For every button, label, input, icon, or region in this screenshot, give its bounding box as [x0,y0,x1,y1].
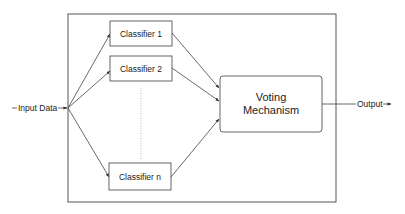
edge-input-to-classifier-n [68,108,109,177]
voting-label-line-2: Mechanism [243,104,299,116]
classifier-1-label: Classifier 1 [120,29,162,39]
input-data-label: Input Data [18,103,57,113]
classifier-1-box: Classifier 1 [110,21,172,46]
edge-input-to-classifier-1 [68,34,110,108]
classifier-n-label: Classifier n [119,172,161,182]
classifier-n-box: Classifier n [109,163,171,190]
voting-label-line-1: Voting [256,91,287,103]
edge-classifier-1-to-voting [172,33,219,88]
edge-classifier-n-to-voting [171,119,219,177]
classifier-2-label: Classifier 2 [120,64,162,74]
edge-input-to-classifier-2 [68,71,110,108]
edge-classifier-2-to-voting [172,68,219,101]
ensemble-diagram: Input Data Classifier 1 Classifier 2 Cla… [0,0,405,214]
output-label: Output [357,99,383,109]
voting-mechanism-box: Voting Mechanism [220,76,322,132]
classifier-2-box: Classifier 2 [110,56,172,81]
